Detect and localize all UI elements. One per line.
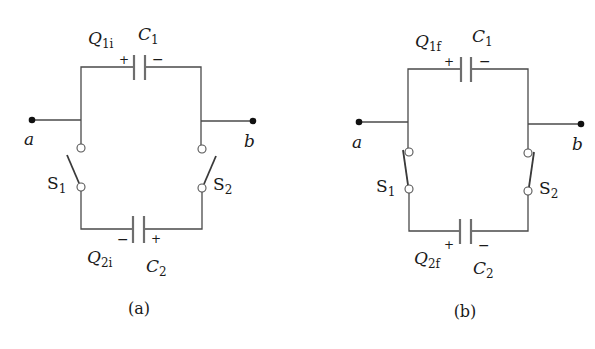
terminal-a-dot-b	[356, 119, 363, 126]
capacitor-label-c2-b: C2	[473, 258, 494, 281]
switch-s2-contact-top-a	[198, 145, 206, 153]
c2-minus-sign-b: −	[478, 237, 490, 253]
switch-label-s2-b: S2	[539, 178, 558, 201]
panel-a: Q1i C1 + − a b S1 S2 − + Q2i C2 (a)	[24, 24, 256, 318]
c1-minus-sign-a: −	[152, 51, 164, 67]
switch-label-s2-a: S2	[213, 174, 232, 197]
switch-label-s1-a: S1	[47, 173, 66, 196]
wire-top-b	[408, 69, 528, 124]
switch-label-s1-b: S1	[376, 176, 395, 199]
wire-bottom-a	[81, 191, 202, 229]
charge-label-q2i: Q2i	[87, 247, 113, 270]
wire-top-a	[81, 67, 201, 121]
terminal-a-dot	[29, 117, 36, 124]
charge-label-q1f: Q1f	[415, 31, 443, 54]
terminal-b-label: b	[244, 131, 255, 151]
terminal-a-label-b: a	[352, 132, 362, 152]
switch-s2-contact-bottom-a	[198, 184, 206, 192]
c2-plus-sign-b: +	[444, 238, 454, 252]
switch-s1-contact-top-b	[405, 148, 413, 156]
capacitor-label-c1-b: C1	[472, 26, 493, 49]
panel-b: Q1f C1 + − a b S1 S2 + − Q2f C2 (b)	[352, 26, 584, 321]
switch-s2-contact-top-b	[524, 149, 532, 157]
c2-plus-sign-a: +	[151, 232, 161, 246]
switch-s2-blade-b	[529, 152, 534, 187]
switch-s1-contact-bottom-b	[405, 185, 413, 193]
terminal-b-dot-b	[578, 121, 585, 128]
terminal-b-dot	[250, 118, 257, 125]
switch-s1-contact-bottom-a	[77, 183, 85, 191]
c1-minus-sign-b: −	[479, 53, 491, 69]
c2-minus-sign-a: −	[117, 231, 129, 247]
capacitor-label-c2-a: C2	[146, 256, 167, 279]
caption-b: (b)	[454, 302, 477, 321]
switch-s1-blade-a	[67, 155, 79, 183]
terminal-b-label-b: b	[572, 134, 583, 154]
charge-label-q1i: Q1i	[88, 28, 114, 51]
c1-plus-sign-b: +	[444, 55, 454, 69]
charge-label-q2f: Q2f	[414, 248, 442, 271]
wire-bottom-b	[409, 193, 528, 231]
switch-s1-contact-top-a	[77, 144, 85, 152]
terminal-a-label: a	[24, 129, 34, 149]
caption-a: (a)	[128, 299, 150, 318]
switch-s2-contact-bottom-b	[524, 187, 532, 195]
capacitor-label-c1-a: C1	[138, 24, 159, 47]
circuit-figure: Q1i C1 + − a b S1 S2 − + Q2i C2 (a)	[0, 0, 595, 349]
c1-plus-sign-a: +	[119, 53, 129, 67]
